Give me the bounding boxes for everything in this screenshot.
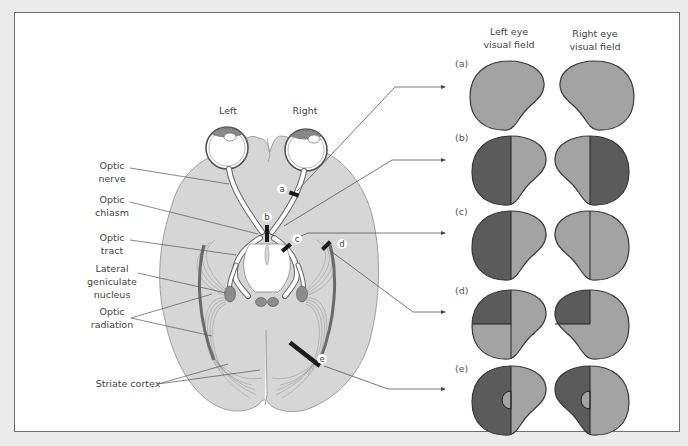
visual-pathway-diagram: Left Right Optic nerve Optic chiasm Opti… bbox=[0, 0, 688, 446]
row-d-label: (d) bbox=[455, 285, 468, 296]
label-lgn-3: nucleus bbox=[94, 289, 131, 300]
figure: Left Right Optic nerve Optic chiasm Opti… bbox=[0, 0, 688, 446]
label-optic-radiation-1: Optic bbox=[99, 306, 124, 317]
left-eye-header-1: Left eye bbox=[490, 26, 528, 37]
row-d-left-field bbox=[471, 284, 551, 364]
row-b-left-field bbox=[471, 130, 551, 210]
right-lgn bbox=[297, 286, 308, 302]
label-optic-chiasm-1: Optic bbox=[99, 194, 124, 205]
label-optic-tract-2: tract bbox=[101, 245, 124, 256]
row-a-left-field bbox=[470, 61, 544, 130]
label-optic-tract-1: Optic bbox=[99, 232, 124, 243]
label-striate-cortex: Striate cortex bbox=[96, 378, 161, 389]
side-labels: Left Right bbox=[219, 105, 318, 116]
field-row-a: (a) bbox=[455, 58, 634, 130]
label-optic-chiasm-2: chiasm bbox=[95, 207, 129, 218]
lesion-e-label: e bbox=[319, 354, 324, 364]
row-e-left-field bbox=[471, 360, 551, 440]
field-row-d: (d) bbox=[455, 284, 630, 364]
field-headers: Left eye visual field Right eye visual f… bbox=[483, 26, 620, 52]
label-lgn-2: geniculate bbox=[87, 276, 137, 287]
row-e-label: (e) bbox=[455, 363, 468, 374]
label-optic-nerve-2: nerve bbox=[98, 173, 125, 184]
right-eye bbox=[285, 129, 327, 171]
lesion-b-label: b bbox=[264, 212, 269, 222]
label-optic-radiation-2: radiation bbox=[91, 319, 133, 330]
row-c-right-field bbox=[550, 205, 630, 285]
lesion-a-label: a bbox=[279, 184, 284, 194]
label-lgn-1: Lateral bbox=[95, 263, 128, 274]
right-eye-header-2: visual field bbox=[569, 41, 620, 52]
row-a-right-field bbox=[560, 61, 634, 130]
row-e-right-field bbox=[550, 360, 630, 440]
left-eye bbox=[206, 127, 248, 169]
row-d-right-field bbox=[550, 284, 630, 364]
field-row-e: (e) bbox=[455, 360, 630, 440]
row-c-label: (c) bbox=[455, 206, 468, 217]
right-eye-header-1: Right eye bbox=[572, 28, 618, 39]
left-eye-header-2: visual field bbox=[483, 39, 534, 50]
row-a-label: (a) bbox=[455, 58, 468, 69]
field-row-c: (c) bbox=[455, 205, 630, 285]
field-row-b: (b) bbox=[455, 130, 630, 210]
left-lgn bbox=[225, 286, 236, 302]
right-side-label: Right bbox=[292, 105, 317, 116]
lesion-b bbox=[265, 225, 269, 242]
row-c-left-field bbox=[471, 205, 551, 285]
lesion-c-label: c bbox=[295, 234, 300, 244]
ventricle bbox=[265, 245, 269, 265]
row-b-right-field bbox=[550, 130, 630, 210]
row-b-label: (b) bbox=[455, 132, 468, 143]
label-optic-nerve-1: Optic bbox=[99, 160, 124, 171]
lesion-d-label: d bbox=[339, 239, 344, 249]
left-side-label: Left bbox=[219, 105, 237, 116]
